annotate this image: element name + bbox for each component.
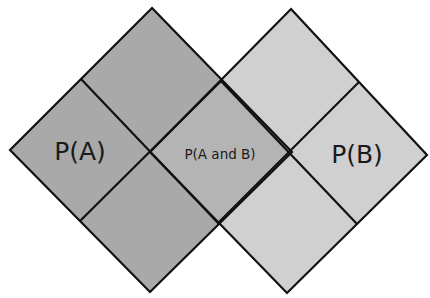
event-b-label: P(B) [331,140,383,169]
probability-diagram: P(A) P(A and B) P(B) [0,0,430,298]
intersection-label: P(A and B) [184,146,255,162]
event-a-label: P(A) [54,137,106,166]
